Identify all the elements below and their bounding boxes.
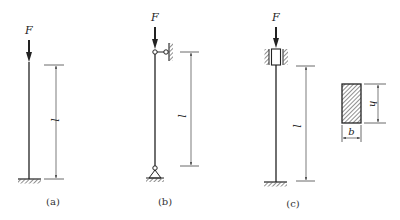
fixed-support-icon: [18, 179, 41, 184]
caption: (b): [158, 196, 172, 207]
length-dimension: l: [44, 65, 64, 179]
length-label: l: [48, 118, 61, 122]
cross-section: h b: [342, 84, 386, 142]
slider-support-icon: [265, 49, 289, 65]
load-arrow-icon: [26, 40, 32, 62]
width-label: b: [348, 126, 354, 137]
caption: (c): [286, 198, 300, 209]
panel-a: F l (a): [18, 24, 64, 207]
section-rectangle: [342, 84, 361, 123]
load-label: F: [150, 11, 159, 24]
length-dimension: l: [175, 52, 199, 166]
length-dimension: l: [290, 66, 315, 181]
height-dimension: h: [364, 84, 386, 123]
caption: (a): [46, 196, 60, 207]
height-label: h: [368, 101, 379, 107]
pin-support-icon: [146, 166, 164, 182]
load-label: F: [271, 11, 280, 24]
load-arrow-icon: [273, 27, 279, 48]
panel-b: F l (b): [146, 11, 199, 207]
length-label: l: [290, 124, 303, 128]
length-label: l: [175, 114, 188, 118]
panel-c: F l (c): [264, 11, 315, 209]
fixed-support-icon: [264, 182, 287, 187]
load-arrow-icon: [152, 27, 158, 49]
column-buckling-diagram: F l (a) F: [0, 0, 400, 220]
width-dimension: b: [342, 125, 361, 142]
load-label: F: [24, 24, 33, 37]
